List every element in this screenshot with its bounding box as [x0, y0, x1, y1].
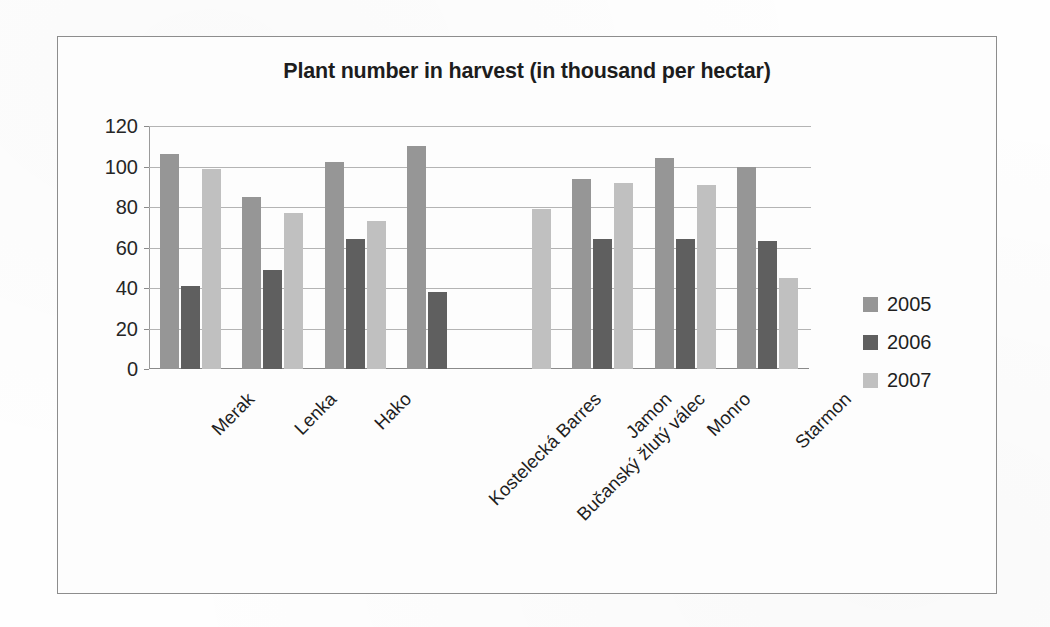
bar-group: [572, 126, 633, 369]
category-label: Hako: [370, 388, 416, 434]
bar[interactable]: [572, 179, 591, 369]
legend-swatch-icon: [863, 373, 878, 388]
bar[interactable]: [242, 197, 261, 369]
bar[interactable]: [428, 292, 447, 369]
chart-frame: Plant number in harvest (in thousand per…: [57, 36, 997, 594]
bar[interactable]: [202, 169, 221, 369]
bar[interactable]: [160, 154, 179, 369]
bar[interactable]: [407, 146, 426, 369]
legend-label: 2005: [887, 293, 932, 316]
bar-group: [242, 126, 303, 369]
y-tick-100: [144, 167, 149, 168]
bar[interactable]: [181, 286, 200, 369]
bar[interactable]: [655, 158, 674, 369]
bar-group: [737, 126, 798, 369]
legend-item[interactable]: 2007: [863, 361, 932, 399]
y-axis-label-60: 60: [116, 236, 138, 259]
page-canvas: Plant number in harvest (in thousand per…: [0, 0, 1050, 627]
bar[interactable]: [614, 183, 633, 369]
legend-label: 2006: [887, 331, 932, 354]
bar-group: [490, 126, 551, 369]
bar[interactable]: [697, 185, 716, 369]
plot-area: 020406080100120 MerakLenkaHakoKostelecká…: [149, 126, 809, 369]
bar[interactable]: [737, 167, 756, 370]
legend-item[interactable]: 2006: [863, 323, 932, 361]
y-axis-label-40: 40: [116, 277, 138, 300]
legend-item[interactable]: 2005: [863, 285, 932, 323]
bar[interactable]: [532, 209, 551, 369]
bar[interactable]: [593, 239, 612, 369]
legend: 200520062007: [863, 285, 932, 399]
y-axis-label-20: 20: [116, 317, 138, 340]
category-label: Merak: [207, 388, 259, 440]
y-axis-label-120: 120: [105, 115, 138, 138]
bar-group: [655, 126, 716, 369]
category-label: Kostelecká Barres: [484, 388, 606, 510]
category-label: Lenka: [290, 388, 341, 439]
y-tick-0: [144, 369, 149, 370]
bar[interactable]: [367, 221, 386, 369]
y-tick-20: [144, 329, 149, 330]
bar[interactable]: [284, 213, 303, 369]
bar[interactable]: [263, 270, 282, 369]
bar[interactable]: [325, 162, 344, 369]
y-tick-60: [144, 248, 149, 249]
bar[interactable]: [676, 239, 695, 369]
bar[interactable]: [758, 241, 777, 369]
bar[interactable]: [346, 239, 365, 369]
bar-group: [160, 126, 221, 369]
y-tick-80: [144, 207, 149, 208]
y-tick-40: [144, 288, 149, 289]
y-axis-label-80: 80: [116, 196, 138, 219]
y-tick-120: [144, 126, 149, 127]
y-axis-label-100: 100: [105, 155, 138, 178]
bar-group: [407, 126, 468, 369]
chart-title: Plant number in harvest (in thousand per…: [58, 59, 996, 84]
y-axis-label-0: 0: [127, 358, 138, 381]
bar-group: [325, 126, 386, 369]
legend-swatch-icon: [863, 297, 878, 312]
category-label: Starmon: [790, 388, 855, 453]
category-label: Monro: [703, 388, 756, 441]
bar[interactable]: [779, 278, 798, 369]
legend-swatch-icon: [863, 335, 878, 350]
legend-label: 2007: [887, 369, 932, 392]
